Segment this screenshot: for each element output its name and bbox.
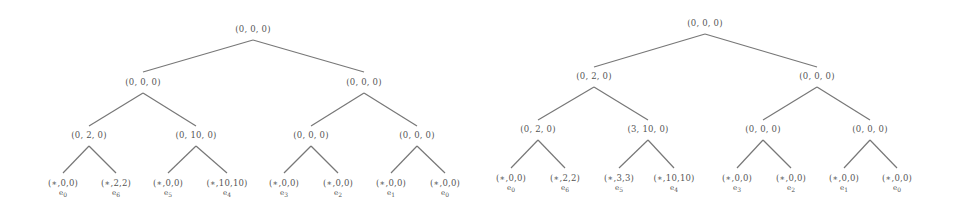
leaf-node: (∗,0,0) (496, 173, 526, 183)
leaf-label: e3 (280, 189, 288, 197)
leaf-node: (∗,0,0) (48, 178, 78, 188)
leaf-node: (∗,0,0) (323, 178, 353, 188)
leaf-node: (∗,0,0) (776, 173, 806, 183)
leaf-node: (∗,0,0) (882, 173, 912, 183)
node-l2-1: (0, 10, 0) (175, 130, 216, 140)
leaf-node: (∗,0,0) (376, 178, 406, 188)
leaf-node: (∗,0,0) (722, 173, 752, 183)
leaf-label: e1 (387, 189, 395, 197)
node-l2-3: (0, 0, 0) (399, 130, 434, 140)
root-node: (0, 0, 0) (687, 18, 722, 28)
leaf-node: (∗,10,10) (206, 178, 247, 188)
leaf-node: (∗,2,2) (550, 173, 580, 183)
root-node: (0, 0, 0) (235, 24, 270, 34)
leaf-node: (∗,0,0) (430, 178, 460, 188)
leaf-label: e3 (733, 184, 741, 192)
leaf-label: e4 (670, 184, 678, 192)
leaf-label: e2 (787, 184, 795, 192)
node-l2-2: (0, 0, 0) (293, 130, 328, 140)
leaf-label: e6 (561, 184, 569, 192)
leaf-label: e1 (840, 184, 848, 192)
node-l2-0: (0, 2, 0) (520, 124, 555, 134)
leaf-node: (∗,2,2) (101, 178, 131, 188)
leaf-label: e4 (223, 189, 231, 197)
node-l2-3: (0, 0, 0) (852, 124, 887, 134)
node-l2-0: (0, 2, 0) (71, 130, 106, 140)
node-l1-0: (0, 2, 0) (576, 71, 611, 81)
leaf-label: e2 (334, 189, 342, 197)
node-l1-0: (0, 0, 0) (125, 77, 160, 87)
leaf-label: e6 (112, 189, 120, 197)
leaf-node: (∗,0,0) (829, 173, 859, 183)
leaf-label: e0 (893, 184, 901, 192)
node-l1-1: (0, 0, 0) (346, 77, 381, 87)
leaf-label: e0 (507, 184, 515, 192)
leaf-label: e5 (164, 189, 172, 197)
leaf-node: (∗,10,10) (653, 173, 694, 183)
leaf-label: e5 (615, 184, 623, 192)
leaf-label: e0 (441, 189, 449, 197)
leaf-node: (∗,3,3) (604, 173, 634, 183)
tree-edges (0, 0, 958, 203)
leaf-label: e0 (59, 189, 67, 197)
node-l1-1: (0, 0, 0) (799, 71, 834, 81)
leaf-node: (∗,0,0) (269, 178, 299, 188)
node-l2-1: (3, 10, 0) (627, 124, 668, 134)
leaf-node: (∗,0,0) (153, 178, 183, 188)
node-l2-2: (0, 0, 0) (745, 124, 780, 134)
